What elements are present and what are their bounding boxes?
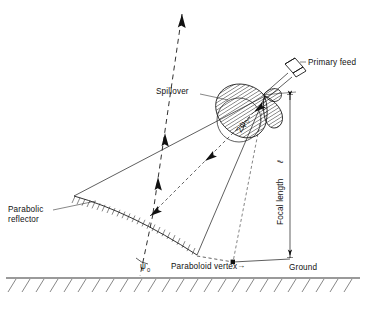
collimated-beam-ray [140,14,186,276]
psi-zero-symbol: ψ [140,262,146,271]
focal-length-label: Focal length [276,178,285,225]
diagram-canvas: Primary feed Spillover Parabolic reflect… [0,0,365,309]
parabolic-reflector-surface [72,196,197,255]
primary-feed-label: Primary feed [308,58,357,67]
spillover-label: Spillover [156,87,189,96]
ground-label: Ground [289,263,318,272]
focal-length-label-group: Focal length ℓ [276,160,285,225]
parabolic-reflector-label-line1: Parabolic [8,205,43,214]
parabolic-reflector-label-line2: reflector [8,215,39,224]
parabolic-reflector-leader-line [53,201,96,210]
antenna-diagram-figure: Primary feed Spillover Parabolic reflect… [0,0,365,309]
paraboloid-vertex-label: Paraboloid vertex [171,262,237,271]
spillover-radiation-lobe [216,84,283,142]
label-leader-lines [53,62,306,210]
focal-length-symbol: ℓ [276,160,285,164]
paraboloid-vertex-arrow: → [237,261,245,270]
ground-hatched-line [6,278,360,292]
psi-zero-label-group: ψ 0 [140,262,150,273]
psi-zero-subscript: 0 [147,267,150,273]
